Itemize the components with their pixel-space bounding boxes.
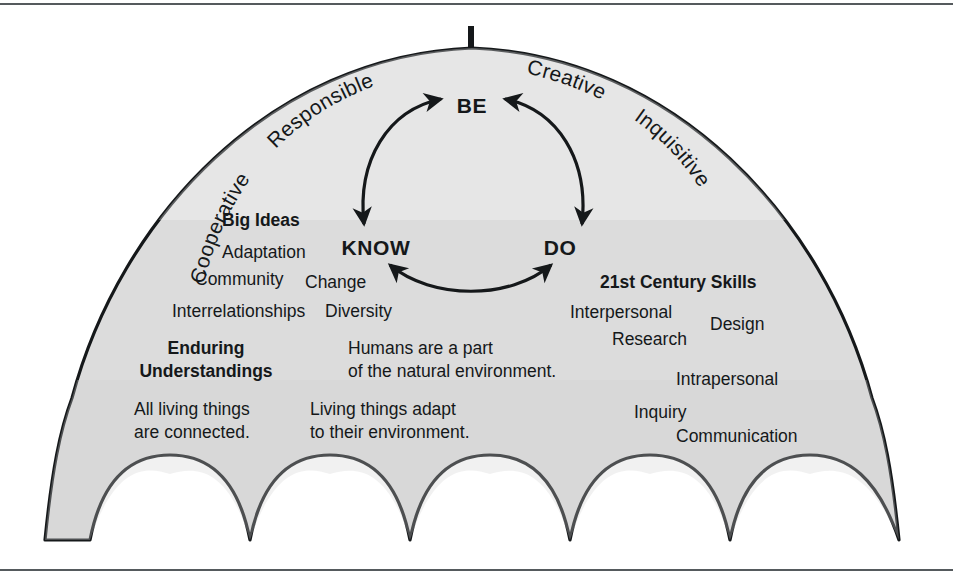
cycle-node-do: DO — [544, 236, 577, 259]
big-idea-change: Change — [305, 272, 366, 292]
enduring-heading-line2: Understandings — [139, 361, 272, 381]
skill-intrapersonal: Intrapersonal — [676, 369, 778, 389]
big-idea-interrelationships: Interrelationships — [172, 301, 306, 321]
big-idea-diversity: Diversity — [325, 301, 392, 321]
big-ideas-heading: Big Ideas — [222, 210, 300, 230]
statement-adapt-line1: Living things adapt — [310, 399, 456, 419]
umbrella-finial — [468, 26, 474, 50]
big-idea-adaptation: Adaptation — [222, 242, 306, 262]
umbrella-svg: Cooperative Responsible Creative Inquisi… — [0, 0, 953, 583]
skill-research: Research — [612, 329, 687, 349]
statement-humans-line2: of the natural environment. — [348, 361, 556, 381]
statement-connected-line2: are connected. — [134, 422, 250, 442]
skill-design: Design — [710, 314, 764, 334]
cycle-node-know: KNOW — [342, 236, 411, 259]
cycle-node-be: BE — [457, 94, 487, 117]
umbrella-diagram: Cooperative Responsible Creative Inquisi… — [0, 0, 953, 583]
statement-humans-line1: Humans are a part — [348, 338, 493, 358]
skill-inquiry: Inquiry — [634, 402, 687, 422]
skill-interpersonal: Interpersonal — [570, 302, 672, 322]
skill-communication: Communication — [676, 426, 798, 446]
statement-adapt-line2: to their environment. — [310, 422, 470, 442]
enduring-heading-line1: Enduring — [168, 338, 245, 358]
statement-connected-line1: All living things — [134, 399, 250, 419]
skills-heading: 21st Century Skills — [600, 272, 757, 292]
big-idea-community: Community — [195, 269, 284, 289]
